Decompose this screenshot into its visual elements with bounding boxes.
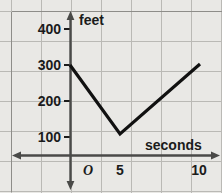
x-tick-label-10: 10 (191, 162, 207, 178)
x-axis-unit-label: seconds (145, 137, 202, 153)
y-tick-label-400: 400 (38, 21, 62, 37)
x-tick-label-5: 5 (116, 162, 124, 178)
y-tick-label-300: 300 (38, 57, 62, 73)
coordinate-plane-graph: feet seconds 400 300 200 100 5 10 O (0, 0, 222, 193)
chart-container: feet seconds 400 300 200 100 5 10 O (0, 0, 222, 193)
y-tick-label-100: 100 (38, 129, 62, 145)
y-tick-label-200: 200 (38, 93, 62, 109)
origin-label: O (83, 163, 93, 178)
y-axis-unit-label: feet (79, 12, 104, 28)
chart-background (0, 0, 222, 193)
